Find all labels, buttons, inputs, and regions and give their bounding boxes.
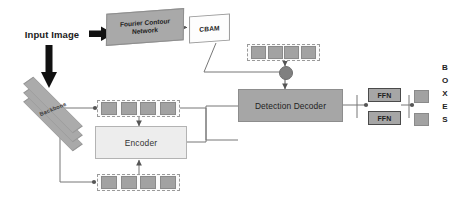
token-square — [121, 176, 137, 189]
token-square — [301, 46, 316, 59]
edge-midtokens-to-decoder — [180, 108, 238, 140]
fourier-contour-network-box[interactable]: Fourier Contour Network — [106, 8, 184, 46]
input-image-label: Input Image — [14, 27, 90, 41]
encoder-box[interactable]: Encoder — [95, 126, 187, 159]
boxes-output-label: B O X E S — [438, 62, 452, 127]
ffn-box-bottom[interactable]: FFN — [368, 111, 401, 125]
token-row-bottom — [97, 174, 180, 191]
merge-node-icon — [279, 66, 293, 80]
token-row-middle — [97, 100, 180, 117]
token-square — [140, 102, 156, 115]
output-box-top — [414, 90, 429, 103]
boxes-letter: E — [442, 101, 447, 114]
boxes-letter: B — [442, 62, 448, 75]
edge-encoder-to-decoder — [187, 106, 238, 142]
ffn-top-label: FFN — [377, 92, 391, 99]
boxes-letter: X — [442, 88, 447, 101]
cbam-label: CBAM — [199, 24, 220, 32]
ffn-box-top[interactable]: FFN — [368, 88, 401, 102]
encoder-label: Encoder — [125, 138, 158, 148]
token-square — [251, 46, 266, 59]
architecture-diagram: Input Image Fourier Contour Network CBAM… — [0, 0, 462, 206]
token-square — [268, 46, 283, 59]
token-square — [101, 176, 117, 189]
token-square — [160, 102, 176, 115]
boxes-letter: O — [442, 75, 448, 88]
token-square — [101, 102, 117, 115]
detection-decoder-label: Detection Decoder — [255, 101, 326, 111]
output-box-bottom — [414, 113, 429, 126]
boxes-letter: S — [442, 114, 447, 127]
backbone-stack[interactable]: Backbone — [14, 84, 90, 140]
token-square — [140, 176, 156, 189]
ffn-bottom-label: FFN — [377, 115, 391, 122]
token-square — [160, 176, 176, 189]
cbam-box[interactable]: CBAM — [189, 14, 230, 44]
arrow-input-to-backbone — [41, 45, 57, 88]
token-row-top — [247, 44, 320, 61]
token-square — [284, 46, 299, 59]
detection-decoder-box[interactable]: Detection Decoder — [238, 89, 343, 122]
token-square — [121, 102, 137, 115]
